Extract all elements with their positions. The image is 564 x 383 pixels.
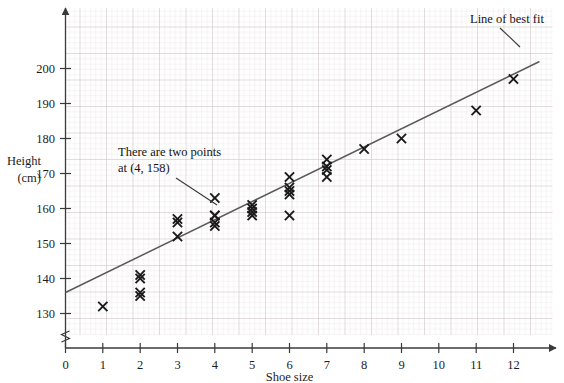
plot-canvas: 130 140 150 160 170 180 190 200 0 1 2 3 … [0, 0, 564, 383]
line-of-best-fit-label: Line of best fit [470, 12, 544, 26]
y-tick-label: 180 [36, 132, 55, 146]
y-tick-label: 160 [36, 202, 55, 216]
y-tick-label: 140 [36, 272, 55, 286]
x-tick-label: 7 [324, 358, 330, 372]
x-tick-label: 12 [507, 358, 520, 372]
scatter-graph-figure: 130 140 150 160 170 180 190 200 0 1 2 3 … [0, 0, 564, 383]
two-points-annotation-line2: at (4, 158) [118, 161, 170, 175]
two-points-annotation-line1: There are two points [118, 145, 221, 159]
x-tick-label: 0 [62, 358, 68, 372]
x-tick-label: 8 [361, 358, 367, 372]
y-axis-title-line1: Height [7, 154, 42, 168]
y-tick-label: 150 [36, 237, 55, 251]
x-tick-label: 9 [398, 358, 404, 372]
x-tick-label: 4 [212, 358, 219, 372]
x-tick-label: 1 [100, 358, 106, 372]
y-tick-label: 190 [36, 97, 55, 111]
y-axis-title-line2: (cm) [17, 171, 41, 185]
x-axis-title: Shoe size [266, 370, 314, 383]
y-tick-label: 200 [36, 62, 55, 76]
x-tick-label: 2 [137, 358, 143, 372]
x-tick-label: 5 [249, 358, 255, 372]
x-tick-label: 10 [433, 358, 446, 372]
x-tick-label: 3 [174, 358, 180, 372]
y-tick-label: 130 [36, 307, 55, 321]
x-tick-label: 11 [470, 358, 482, 372]
